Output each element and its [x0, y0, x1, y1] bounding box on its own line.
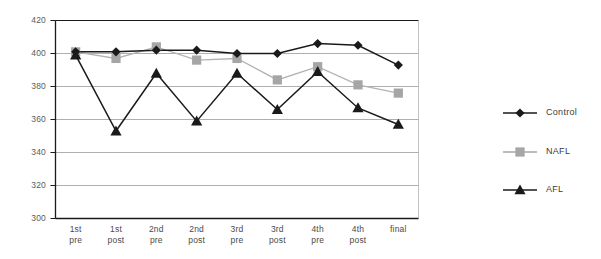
- x-tick-label: final: [376, 224, 420, 235]
- x-tick-label-line2: pre: [134, 235, 178, 246]
- data-point-marker: [313, 39, 322, 48]
- x-tick-label-line1: 2nd: [175, 224, 219, 235]
- data-point-marker: [151, 68, 162, 78]
- x-tick-label-line2: post: [94, 235, 138, 246]
- y-tick-label: 300: [20, 213, 46, 223]
- x-tick-label-line1: 4th: [296, 224, 340, 235]
- x-tick-label-line2: pre: [54, 235, 98, 246]
- data-point-marker: [231, 68, 242, 78]
- data-point-marker: [110, 125, 121, 135]
- x-tick-label: 3rdpost: [255, 224, 299, 246]
- x-tick-label-line2: pre: [296, 235, 340, 246]
- legend-label-afl: AFL: [546, 184, 563, 194]
- data-point-marker: [273, 49, 282, 58]
- x-tick-label-line1: final: [376, 224, 420, 235]
- data-point-marker: [273, 75, 282, 84]
- x-tick-label-line1: 1st: [94, 224, 138, 235]
- data-point-marker: [394, 89, 403, 98]
- data-point-marker: [353, 80, 362, 89]
- x-tick-label: 1stpre: [54, 224, 98, 246]
- data-point-marker: [353, 41, 362, 50]
- x-tick-label-line1: 1st: [54, 224, 98, 235]
- x-tick-label: 3rdpre: [215, 224, 259, 246]
- x-tick-label: 2ndpost: [175, 224, 219, 246]
- y-tick-label: 420: [20, 15, 46, 25]
- x-tick-label: 4thpost: [336, 224, 380, 246]
- x-tick-label: 2ndpre: [134, 224, 178, 246]
- x-tick-label-line1: 3rd: [255, 224, 299, 235]
- x-tick-label-line1: 3rd: [215, 224, 259, 235]
- y-tick-label: 360: [20, 114, 46, 124]
- data-point-marker: [192, 56, 201, 65]
- x-tick-label-line2: post: [255, 235, 299, 246]
- x-tick-label-line2: pre: [215, 235, 259, 246]
- legend-label-nafl: NAFL: [546, 146, 570, 156]
- x-tick-label-line2: post: [336, 235, 380, 246]
- y-tick-label: 380: [20, 81, 46, 91]
- y-tick-label: 340: [20, 147, 46, 157]
- plot-area: [0, 0, 601, 259]
- x-tick-label: 4thpre: [296, 224, 340, 246]
- line-chart: 300320340360380400420 1stpre1stpost2ndpr…: [0, 0, 601, 259]
- x-tick-label-line1: 4th: [336, 224, 380, 235]
- data-point-marker: [393, 119, 404, 129]
- x-tick-label-line2: post: [175, 235, 219, 246]
- legend-label-control: Control: [546, 107, 577, 117]
- data-point-marker: [394, 60, 403, 69]
- x-tick-label-line1: 2nd: [134, 224, 178, 235]
- x-tick-label: 1stpost: [94, 224, 138, 246]
- y-tick-label: 400: [20, 48, 46, 58]
- y-tick-label: 320: [20, 180, 46, 190]
